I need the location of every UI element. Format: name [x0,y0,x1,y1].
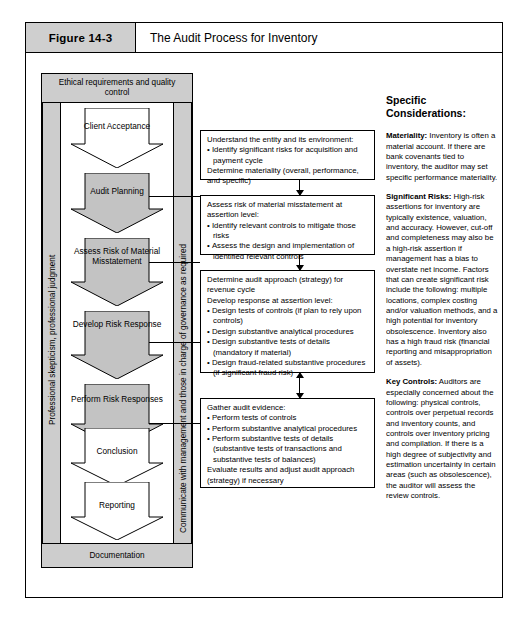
figure-number: Figure 14-3 [26,23,136,52]
flow-step-assess-risk[interactable]: Assess Risk of Material Misstatement [71,238,163,306]
consideration-body: High-risk assertions for inventory are t… [386,192,497,367]
figure-title-bar: Figure 14-3 The Audit Process for Invent… [26,23,502,53]
process-box-bullet: Perform substantive analytical procedure… [207,424,369,434]
process-box-bullet: Perform tests of controls [207,413,369,423]
process-box-bullet: Identify significant risks for acquisiti… [207,145,369,166]
process-box-tail: Determine materiality (overall, performa… [207,166,369,187]
arrowhead-up-icon [296,372,304,378]
specific-considerations-column: Specific Considerations: Materiality: In… [386,94,498,510]
process-box-tail: Evaluate results and adjust audit approa… [207,465,369,486]
process-box-bullet: Perform substantive tests of details (su… [207,434,369,465]
left-vertical-label: Professional skepticism, professional ju… [42,103,61,543]
flow-step-conclusion[interactable]: Conclusion [71,428,163,486]
band-ethical-requirements: Ethical requirements and quality control [41,73,193,103]
flow-step-label: Client Acceptance [71,121,163,131]
consideration-term: Key Controls: [386,377,437,386]
process-box-bullet: Design tests of controls (if plan to rel… [207,306,369,327]
right-vertical-label: Communicate with management and those in… [173,103,192,543]
process-box-bullet: Design substantive tests of details (man… [207,337,369,358]
process-box-bullet: Identify relevant controls to mitigate t… [207,221,369,242]
flow-step-label: Conclusion [71,446,163,456]
process-box-determine-audit-approach: Determine audit approach (strategy) for … [200,270,375,373]
flow-step-reporting[interactable]: Reporting [71,482,163,540]
connector-line-3 [149,342,200,343]
process-box-lead: Assess risk of material misstatement at … [207,200,369,221]
flow-step-label: Develop Risk Response [71,319,163,329]
process-box-bullet: Design fraud-related substantive procedu… [207,358,369,379]
process-box-bullets: Design tests of controls (if plan to rel… [207,306,369,379]
consideration-materiality: Materiality: Inventory is often a materi… [386,131,498,183]
consideration-key-controls: Key Controls: Auditors are especially co… [386,377,498,501]
process-box-bullet: Assess the design and implementation of … [207,241,369,262]
process-box-lead: Understand the entity and its environmen… [207,135,369,145]
left-vertical-label-text: Professional skepticism, professional ju… [48,254,57,425]
flow-step-develop-risk-response[interactable]: Develop Risk Response [71,311,163,379]
process-box-lead: Determine audit approach (strategy) for … [207,275,369,296]
process-box-bullet: Design substantive analytical procedures [207,327,369,337]
figure-root: Figure 14-3 The Audit Process for Invent… [0,0,528,620]
connector-line-4 [149,423,200,424]
figure-title: The Audit Process for Inventory [136,23,502,52]
process-box-bullets: Identify significant risks for acquisiti… [207,145,369,166]
box-connector-1 [299,180,300,195]
connector-line-1 [149,196,200,197]
flow-step-label: Reporting [71,500,163,510]
box-connector-2 [299,255,300,270]
band-documentation: Documentation [41,543,193,568]
connector-line-2 [149,262,200,263]
right-vertical-label-text: Communicate with management and those in… [179,244,188,533]
specific-considerations-heading: Specific Considerations: [386,94,498,120]
flow-step-client-acceptance[interactable]: Client Acceptance [71,108,163,168]
process-box-lead2: Develop response at assertion level: [207,296,369,306]
flow-step-label: Perform Risk Responses [71,394,163,404]
flow-step-label: Assess Risk of Material Misstatement [71,246,163,267]
box-connector-3 [299,373,300,398]
consideration-term: Significant Risks: [386,192,451,201]
consideration-body: Auditors are especially concerned about … [386,377,496,500]
flow-step-audit-planning[interactable]: Audit Planning [71,173,163,233]
consideration-significant-risks: Significant Risks: High-risk assertions … [386,192,498,368]
process-box-assess-rmm: Assess risk of material misstatement at … [200,195,375,255]
process-box-bullets: Identify relevant controls to mitigate t… [207,221,369,262]
process-box-lead: Gather audit evidence: [207,403,369,413]
process-box-understand-entity: Understand the entity and its environmen… [200,130,375,180]
process-box-gather-evidence: Gather audit evidence: Perform tests of … [200,398,375,488]
flow-step-label: Audit Planning [71,186,163,196]
process-box-bullets: Perform tests of controls Perform substa… [207,413,369,465]
consideration-term: Materiality: [386,131,427,140]
